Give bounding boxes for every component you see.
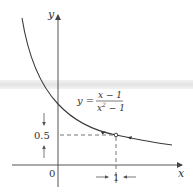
svg-text:x2 − 1: x2 − 1 [97,101,125,113]
equation-label: y = x − 1 x2 − 1 [76,90,125,113]
y-limit-label: 0.5 [34,130,50,141]
y-axis-label: y [47,8,55,21]
x-limit-label: 1 [113,172,119,183]
svg-text:y =: y = [76,95,94,106]
function-graph: y x 0 0.5 1 y = x − 1 x2 − 1 [0,0,193,194]
limit-guides [60,135,116,186]
origin-label: 0 [49,168,55,179]
arrowhead-left-approach-icon [101,132,106,135]
svg-text:x − 1: x − 1 [98,90,122,100]
x-axis-label: x [178,167,185,180]
hole-point-icon [114,133,118,137]
curve [22,18,172,145]
